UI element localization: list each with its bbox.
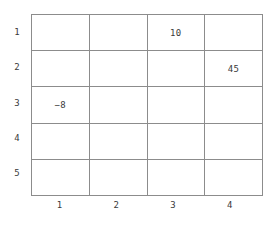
cell-r5c1[interactable] — [32, 159, 90, 195]
column-label-4: 4 — [201, 201, 258, 210]
column-label-2: 2 — [88, 201, 145, 210]
cell-r3c4[interactable] — [205, 87, 263, 123]
table-row: 45 — [32, 51, 263, 87]
row-label-4: 4 — [8, 134, 26, 143]
cell-r2c1[interactable] — [32, 51, 90, 87]
cell-r4c3[interactable] — [147, 123, 205, 159]
cell-r2c2[interactable] — [89, 51, 147, 87]
cell-r3c3[interactable] — [147, 87, 205, 123]
cell-r5c3[interactable] — [147, 159, 205, 195]
cell-r1c2[interactable] — [89, 15, 147, 51]
cell-r3c2[interactable] — [89, 87, 147, 123]
grid-widget: 1 2 3 4 5 10 45 −8 — [0, 0, 269, 225]
cell-r5c4[interactable] — [205, 159, 263, 195]
cell-r5c2[interactable] — [89, 159, 147, 195]
cell-r4c4[interactable] — [205, 123, 263, 159]
table-row: 10 — [32, 15, 263, 51]
row-label-3: 3 — [8, 99, 26, 108]
row-label-1: 1 — [8, 28, 26, 37]
cell-r4c2[interactable] — [89, 123, 147, 159]
row-label-5: 5 — [8, 169, 26, 178]
cell-r1c3[interactable]: 10 — [147, 15, 205, 51]
table-row — [32, 159, 263, 195]
cell-r1c4[interactable] — [205, 15, 263, 51]
table-row — [32, 123, 263, 159]
cell-r3c1[interactable]: −8 — [32, 87, 90, 123]
cell-r1c1[interactable] — [32, 15, 90, 51]
table-row: −8 — [32, 87, 263, 123]
data-grid-table: 10 45 −8 — [31, 14, 263, 196]
cell-r2c3[interactable] — [147, 51, 205, 87]
cell-r2c4[interactable]: 45 — [205, 51, 263, 87]
cell-r4c1[interactable] — [32, 123, 90, 159]
column-label-3: 3 — [145, 201, 202, 210]
row-label-2: 2 — [8, 63, 26, 72]
column-label-1: 1 — [31, 201, 88, 210]
